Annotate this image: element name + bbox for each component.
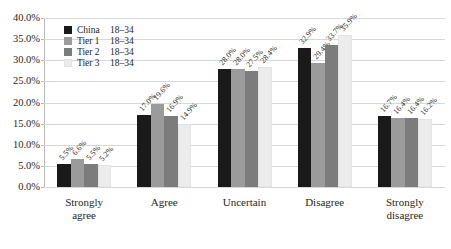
bar-group: 16.7%16.4%16.4%16.2% xyxy=(378,18,432,187)
legend-item-label: Tier 118–34 xyxy=(77,36,134,46)
chart-legend: China18–34Tier 118–34Tier 218–34Tier 318… xyxy=(62,23,136,69)
y-axis-tick xyxy=(41,166,44,167)
bar[interactable]: 16.9% xyxy=(164,116,178,187)
y-axis-tick-label: 40.0% xyxy=(0,13,40,23)
bar[interactable]: 27.5% xyxy=(245,71,259,187)
x-axis-category-label: Agree xyxy=(124,196,204,209)
y-axis-tick xyxy=(41,18,44,19)
y-axis-tick xyxy=(41,187,44,188)
y-axis-tick-label: 30.0% xyxy=(0,55,40,65)
bar[interactable]: 16.4% xyxy=(391,118,405,187)
bar-value-label: 35.9% xyxy=(339,13,359,34)
legend-item-label: China18–34 xyxy=(77,25,134,35)
x-axis-category-label-line: Agree xyxy=(124,196,204,209)
bar-value-label: 19.6% xyxy=(152,81,172,102)
bar[interactable]: 5.5% xyxy=(84,164,98,187)
bar[interactable]: 35.9% xyxy=(338,35,352,187)
legend-item[interactable]: Tier 218–34 xyxy=(64,46,134,57)
legend-item[interactable]: Tier 118–34 xyxy=(64,35,134,46)
legend-color-swatch xyxy=(64,26,72,34)
bar[interactable]: 33.7% xyxy=(325,45,339,187)
y-axis-tick xyxy=(41,39,44,40)
bar[interactable]: 5.5% xyxy=(57,164,71,187)
bar[interactable]: 32.9% xyxy=(298,48,312,187)
bar-value-label: 28.4% xyxy=(259,44,279,65)
bar[interactable]: 28.0% xyxy=(218,69,232,187)
bar[interactable]: 5.2% xyxy=(98,165,112,187)
bar[interactable]: 16.2% xyxy=(418,119,432,187)
x-axis-category-label-line: agree xyxy=(44,209,124,222)
x-axis-category-label-line: Disagree xyxy=(285,196,365,209)
x-axis-category-label-line: disagree xyxy=(365,209,445,222)
x-axis-category-label-line: Strongly xyxy=(365,196,445,209)
grid-line xyxy=(44,187,445,188)
bar[interactable]: 19.6% xyxy=(151,104,165,187)
bar[interactable]: 28.0% xyxy=(231,69,245,187)
legend-item[interactable]: China18–34 xyxy=(64,24,134,35)
x-axis-category-label: Disagree xyxy=(285,196,365,209)
y-axis-tick xyxy=(41,124,44,125)
bar[interactable]: 6.6% xyxy=(71,159,85,187)
x-axis-category-label: Stronglydisagree xyxy=(365,196,445,221)
legend-item-label: Tier 318–34 xyxy=(77,58,134,68)
bar[interactable]: 29.4% xyxy=(311,63,325,187)
bar-group: 17.0%19.6%16.9%14.9% xyxy=(137,18,191,187)
bar[interactable]: 14.9% xyxy=(178,124,192,187)
bar-group: 28.0%28.0%27.5%28.4% xyxy=(218,18,272,187)
x-axis-category-label: Uncertain xyxy=(204,196,284,209)
bar-value-label: 32.9% xyxy=(298,25,318,46)
y-axis-tick-label: 20.0% xyxy=(0,98,40,108)
y-axis-tick xyxy=(41,60,44,61)
y-axis-tick-label: 15.0% xyxy=(0,119,40,129)
bar[interactable]: 16.4% xyxy=(405,118,419,187)
x-axis-category-label-line: Strongly xyxy=(44,196,124,209)
legend-item-label: Tier 218–34 xyxy=(77,47,134,57)
x-axis-category-label-line: Uncertain xyxy=(204,196,284,209)
grouped-bar-chart: 5.5%6.6%5.5%5.2%17.0%19.6%16.9%14.9%28.0… xyxy=(0,0,451,249)
bar[interactable]: 17.0% xyxy=(137,115,151,187)
y-axis-tick-label: 0.0% xyxy=(0,182,40,192)
bar-value-label: 14.9% xyxy=(179,101,199,122)
bar[interactable]: 28.4% xyxy=(258,67,272,187)
y-axis-tick xyxy=(41,103,44,104)
legend-color-swatch xyxy=(64,48,72,56)
y-axis-tick xyxy=(41,145,44,146)
bar-group: 32.9%29.4%33.7%35.9% xyxy=(298,18,352,187)
y-axis-tick-label: 10.0% xyxy=(0,140,40,150)
y-axis-tick-label: 35.0% xyxy=(0,34,40,44)
legend-item[interactable]: Tier 318–34 xyxy=(64,57,134,68)
x-axis-category-label: Stronglyagree xyxy=(44,196,124,221)
y-axis-tick-label: 5.0% xyxy=(0,161,40,171)
y-axis-tick xyxy=(41,81,44,82)
bar[interactable]: 16.7% xyxy=(378,116,392,187)
y-axis-tick-label: 25.0% xyxy=(0,76,40,86)
legend-color-swatch xyxy=(64,59,72,67)
legend-color-swatch xyxy=(64,37,72,45)
